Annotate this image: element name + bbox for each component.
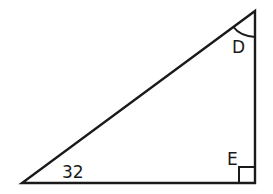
label-32: 32 — [62, 162, 84, 182]
label-e: E — [227, 149, 238, 169]
triangle-diagram: D E 32 — [0, 0, 273, 194]
right-angle-marker — [239, 167, 255, 183]
triangle — [22, 11, 255, 183]
angle-d-arc — [234, 27, 256, 37]
label-d: D — [232, 37, 245, 57]
